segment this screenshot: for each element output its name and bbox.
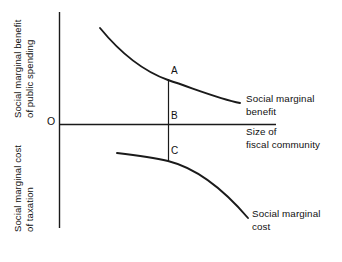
x-axis-label-line2: fiscal community xyxy=(246,139,320,152)
curve-label-cost-line2: cost xyxy=(252,221,320,234)
point-label-c: C xyxy=(171,146,178,156)
y-axis-label-upper-line1: Social marginal benefit xyxy=(12,20,24,118)
economics-diagram-figure: Social marginal benefit of public spendi… xyxy=(0,0,342,262)
x-axis-label-line1: Size of xyxy=(246,126,320,139)
y-axis-label-lower-line1: Social marginal cost xyxy=(12,145,24,232)
curve-label-social-marginal-cost: Social marginal cost xyxy=(252,208,320,233)
y-axis-label-upper: Social marginal benefit of public spendi… xyxy=(12,20,35,118)
x-axis-label-size-of-fiscal-community: Size of fiscal community xyxy=(246,126,320,151)
y-axis-label-upper-line2: of public spending xyxy=(24,20,36,118)
point-label-b: B xyxy=(171,111,178,121)
curve-label-social-marginal-benefit: Social marginal benefit xyxy=(246,93,314,118)
curve-label-benefit-line2: benefit xyxy=(246,106,314,119)
curve-label-benefit-line1: Social marginal xyxy=(246,93,314,106)
social-marginal-cost-curve xyxy=(117,153,248,218)
origin-label: O xyxy=(47,116,55,127)
point-label-a: A xyxy=(171,66,178,76)
y-axis-label-lower: Social marginal cost of taxation xyxy=(12,145,35,232)
curve-label-cost-line1: Social marginal xyxy=(252,208,320,221)
social-marginal-benefit-curve xyxy=(100,28,240,103)
y-axis-label-lower-line2: of taxation xyxy=(24,145,36,232)
